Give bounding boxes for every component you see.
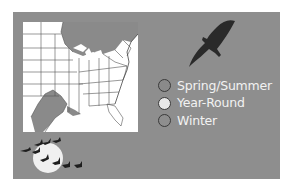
legend-label: Year-Round — [177, 97, 245, 110]
winter-swatch-icon — [158, 114, 171, 127]
bird-silhouette-icon — [183, 15, 239, 71]
legend-label: Winter — [177, 115, 217, 128]
legend-label: Spring/Summer — [177, 80, 272, 93]
year-round-swatch-icon — [158, 97, 171, 110]
moon-with-flock-icon — [18, 137, 86, 179]
spring-summer-swatch-icon — [158, 79, 171, 92]
legend-item-year-round: Year-Round — [158, 95, 272, 113]
us-states-map — [23, 22, 138, 132]
legend-item-spring-summer: Spring/Summer — [158, 77, 272, 95]
range-map — [23, 22, 138, 132]
legend: Spring/Summer Year-Round Winter — [158, 77, 272, 130]
legend-item-winter: Winter — [158, 112, 272, 130]
